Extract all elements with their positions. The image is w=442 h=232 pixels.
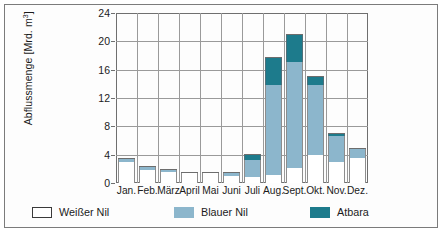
legend-item-atbara: Atbara <box>310 206 369 218</box>
bar-märz <box>160 169 176 183</box>
bar-okt <box>307 76 323 183</box>
blue-swatch-icon <box>174 207 194 218</box>
bar-top-cap <box>265 57 281 58</box>
bar-segment-white <box>223 176 239 183</box>
y-tick-mark <box>111 70 115 71</box>
bar-mai <box>202 172 218 183</box>
bar-top-cap <box>160 169 176 170</box>
y-axis-title-text: Abflussmenge [Mrd. m <box>22 18 34 125</box>
y-tick-label: 4 <box>70 149 110 161</box>
bar-sept <box>286 34 302 183</box>
y-tick-mark <box>111 41 115 42</box>
y-axis-title-tail: ] <box>22 11 34 14</box>
bar-feb <box>139 166 155 183</box>
bar-segment-blue <box>307 85 323 156</box>
bar-segment-teal <box>286 34 302 62</box>
bar-top-cap <box>328 133 344 134</box>
bar-segment-teal <box>307 76 323 85</box>
bar-aug <box>265 57 281 183</box>
legend-item-blauer-nil: Blauer Nil <box>174 206 248 218</box>
y-tick-label: 16 <box>70 64 110 76</box>
y-axis-title: Abflussmenge [Mrd. m3] <box>22 0 35 148</box>
bar-top-cap <box>349 148 365 149</box>
y-tick-label: 8 <box>70 120 110 132</box>
bar-top-cap <box>181 172 197 173</box>
bar-segment-blue <box>244 160 260 177</box>
bar-segment-white <box>286 168 302 183</box>
bar-segment-white <box>181 173 197 183</box>
bar-juni <box>223 172 239 183</box>
y-axis-title-exponent: 3 <box>22 14 29 18</box>
y-tick-mark <box>111 98 115 99</box>
y-tick-label: 12 <box>70 92 110 104</box>
legend-label-blauer-nil: Blauer Nil <box>201 206 248 218</box>
bar-top-cap <box>244 154 260 155</box>
white-swatch-icon <box>32 207 52 218</box>
y-tick-mark <box>111 13 115 14</box>
bar-top-cap <box>118 158 134 159</box>
bar-segment-blue <box>328 136 344 163</box>
teal-swatch-icon <box>310 207 330 218</box>
bar-segment-white <box>139 170 155 183</box>
y-tick-label: 24 <box>70 7 110 19</box>
bar-nov <box>328 133 344 183</box>
chart-legend: Weißer Nil Blauer Nil Atbara <box>28 203 410 221</box>
bar-segment-white <box>328 162 344 183</box>
bar-april <box>181 172 197 183</box>
bar-top-cap <box>202 172 218 173</box>
bar-top-cap <box>286 34 302 35</box>
bar-segment-blue <box>349 148 365 159</box>
y-tick-label: 0 <box>70 177 110 189</box>
bar-segment-teal <box>265 57 281 85</box>
bar-group <box>116 13 368 183</box>
bar-segment-white <box>160 172 176 183</box>
bar-jan <box>118 158 134 184</box>
chart-figure: Abflussmenge [Mrd. m3] 04812162024 Jan.F… <box>0 0 442 232</box>
bar-segment-white <box>244 177 260 183</box>
y-tick-label: 20 <box>70 35 110 47</box>
bar-segment-blue <box>286 62 302 168</box>
bar-segment-white <box>307 155 323 183</box>
x-tick-label-dez: Dez. <box>344 185 371 196</box>
legend-label-weisser-nil: Weißer Nil <box>59 206 109 218</box>
bar-top-cap <box>307 76 323 77</box>
legend-label-atbara: Atbara <box>337 206 369 218</box>
bar-juli <box>244 154 260 183</box>
bar-top-cap <box>139 166 155 167</box>
y-tick-mark <box>111 155 115 156</box>
bar-segment-white <box>118 162 134 183</box>
bar-top-cap <box>223 172 239 173</box>
plot-area <box>116 13 368 183</box>
bar-segment-white <box>265 175 281 184</box>
bar-segment-blue <box>265 85 281 174</box>
y-tick-mark <box>111 183 115 184</box>
x-axis-tick-labels: Jan.Feb.MärzAprilMaiJuniJuliAug.Sept.Okt… <box>116 185 368 199</box>
bar-segment-white <box>349 158 365 183</box>
bar-segment-white <box>202 173 218 183</box>
bar-dez <box>349 148 365 183</box>
y-tick-mark <box>111 126 115 127</box>
legend-item-weisser-nil: Weißer Nil <box>32 206 109 218</box>
